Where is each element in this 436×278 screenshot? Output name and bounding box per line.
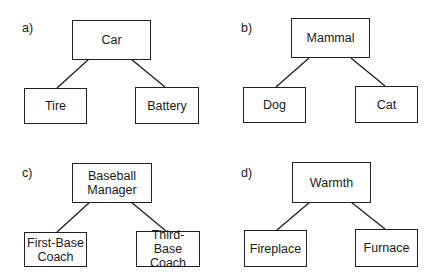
node-label: Car [101,33,121,47]
node-label: Baseball Manager [82,169,142,197]
node-car: Car [72,20,151,60]
link-warmth-furnace [351,202,385,229]
node-label: Battery [147,99,187,113]
node-warmth: Warmth [292,162,371,203]
node-label: Dog [263,98,286,112]
node-mammal: Mammal [291,18,370,58]
node-label: First-Base Coach [26,236,86,264]
node-label: Cat [377,98,396,112]
node-label: Fireplace [250,242,301,256]
node-baseball-manager: Baseball Manager [72,163,152,203]
panel-label-c: c) [22,166,32,180]
node-label: Tire [45,99,66,113]
panel-label-b: b) [241,21,252,35]
link-manager-firstbase [57,202,90,232]
link-manager-thirdbase [131,202,166,231]
link-warmth-fireplace [277,202,310,230]
link-mammal-dog [276,58,309,87]
node-furnace: Furnace [355,229,418,267]
node-label: Warmth [310,176,353,190]
node-label: Third-Base Coach [138,228,198,270]
link-mammal-cat [351,58,385,86]
panel-label-a: a) [22,21,33,35]
link-car-battery [131,59,165,87]
panel-label-d: d) [241,166,252,180]
node-dog: Dog [243,87,306,123]
link-car-tire [57,59,89,88]
node-cat: Cat [355,86,418,123]
node-first-base-coach: First-Base Coach [24,232,87,267]
node-label: Mammal [307,31,355,45]
node-fireplace: Fireplace [244,230,307,267]
node-tire: Tire [24,88,87,124]
node-battery: Battery [135,87,199,124]
node-label: Furnace [364,241,410,255]
node-third-base-coach: Third-Base Coach [136,231,200,267]
